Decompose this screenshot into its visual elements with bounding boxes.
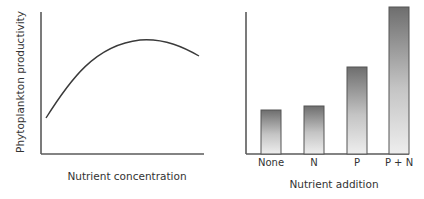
tick-label-p: P: [354, 157, 360, 168]
bar-p: [347, 67, 367, 154]
y-axis-label: Phytoplankton productivity: [14, 11, 26, 153]
productivity-curve: [46, 40, 199, 118]
figure-svg: [0, 0, 424, 199]
tick-label-none: None: [258, 157, 284, 168]
bar-p-plus-n: [389, 7, 409, 154]
line-chart: [41, 12, 204, 154]
bar-none: [261, 110, 281, 154]
right-x-axis-label: Nutrient addition: [289, 178, 378, 190]
bar-chart: [246, 7, 409, 154]
bar-n: [304, 106, 324, 154]
left-x-axis-label: Nutrient concentration: [67, 170, 186, 182]
tick-label-n: N: [310, 157, 317, 168]
figure: Phytoplankton productivity Nutrient conc…: [0, 0, 424, 199]
tick-label-p-plus-n: P + N: [385, 157, 413, 168]
